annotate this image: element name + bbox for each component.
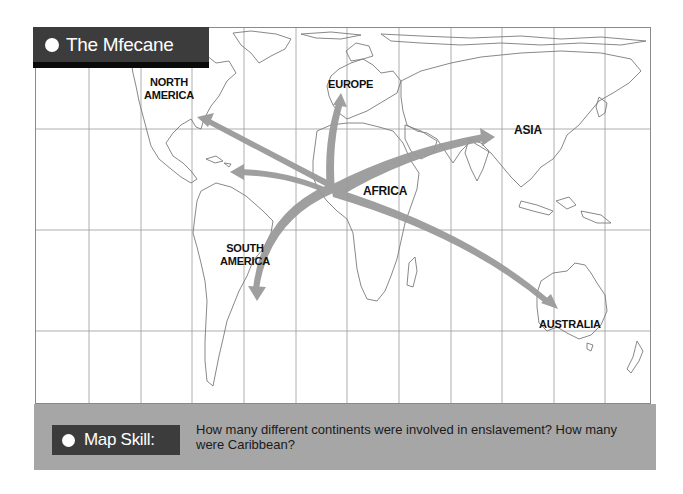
label-australia: AUSTRALIA [539,318,601,331]
map-skill-label: Map Skill: [84,430,155,450]
arrow-to-south-america [253,185,333,289]
map-skill-question: How many different continents were invol… [196,422,646,452]
arrow-to-australia [331,187,551,305]
arrowhead-south-america [248,286,266,301]
label-africa: AFRICA [363,185,407,198]
bullet-dot-icon [45,38,59,52]
label-europe: EUROPE [328,78,373,91]
world-map: NORTH AMERICA EUROPE ASIA AFRICA SOUTH A… [35,27,651,404]
arrowhead-europe [333,93,347,107]
label-north-america: NORTH AMERICA [144,76,194,102]
arrowhead-asia [480,128,495,146]
label-south-america: SOUTH AMERICA [220,242,270,268]
bullet-dot-icon [62,434,75,447]
arrowhead-caribbean [230,164,244,180]
label-asia: ASIA [514,124,542,137]
map-title: The Mfecane [66,34,174,56]
map-skill-panel: Map Skill: How many different continents… [34,404,656,470]
map-skill-badge: Map Skill: [52,425,180,455]
title-banner: The Mfecane [33,27,209,68]
